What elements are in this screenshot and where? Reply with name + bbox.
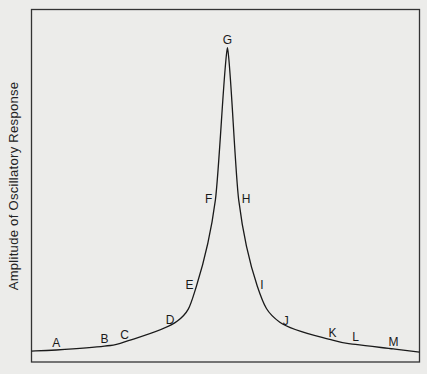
y-axis-label: Amplitude of Oscillatory Response xyxy=(6,82,21,291)
point-label-m: M xyxy=(389,335,399,349)
resonance-curve xyxy=(32,48,420,352)
point-label-c: C xyxy=(120,328,129,342)
point-label-d: D xyxy=(166,313,175,327)
point-label-b: B xyxy=(100,332,108,346)
point-label-j: J xyxy=(283,314,289,328)
resonance-chart: Amplitude of Oscillatory Response ABCDEF… xyxy=(0,0,427,374)
point-label-k: K xyxy=(329,326,337,340)
point-label-l: L xyxy=(352,330,359,344)
point-label-f: F xyxy=(205,192,212,206)
point-label-a: A xyxy=(52,336,60,350)
point-label-g: G xyxy=(223,33,232,47)
point-label-h: H xyxy=(242,192,251,206)
point-labels: ABCDEFGHIJKLM xyxy=(52,33,398,350)
point-label-e: E xyxy=(185,278,193,292)
point-label-i: I xyxy=(260,278,263,292)
